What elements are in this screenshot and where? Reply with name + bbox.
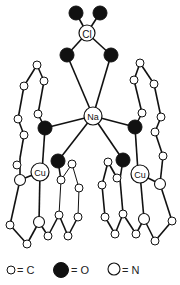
oxygen-legend-icon xyxy=(54,263,69,278)
legend-nitrogen-label: = N xyxy=(122,264,139,276)
left-ligand-bonds xyxy=(10,65,79,244)
legend-carbon-label: = C xyxy=(17,264,34,276)
legend-oxygen-label: = O xyxy=(71,264,89,276)
carbon-atoms xyxy=(6,59,176,248)
copper-left-label: Cu xyxy=(34,168,46,178)
carbon-legend-icon xyxy=(7,266,15,274)
sodium-label: Na xyxy=(87,112,99,122)
sodium-atom: Na xyxy=(84,107,102,125)
molecule-diagram: Cl Na Cu Cu = C = O = N xyxy=(0,0,180,285)
copper-atom-right: Cu xyxy=(131,165,149,183)
nitrogen-legend-icon xyxy=(108,263,120,275)
chlorine-label: Cl xyxy=(82,29,91,40)
copper-atom-left: Cu xyxy=(31,163,49,181)
copper-right-label: Cu xyxy=(134,170,146,180)
chlorine-atom: Cl xyxy=(79,25,95,41)
legend: = C = O = N xyxy=(7,263,139,278)
